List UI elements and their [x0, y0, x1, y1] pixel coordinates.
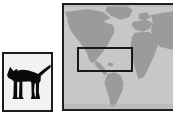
image-canvas [0, 0, 173, 119]
world-map-icon [64, 5, 173, 109]
cat-image-panel[interactable] [2, 52, 53, 112]
cat-image-content [4, 54, 51, 110]
cat-silhouette-icon [4, 54, 51, 110]
world-map-panel[interactable] [62, 3, 173, 111]
world-map-content [64, 5, 173, 109]
